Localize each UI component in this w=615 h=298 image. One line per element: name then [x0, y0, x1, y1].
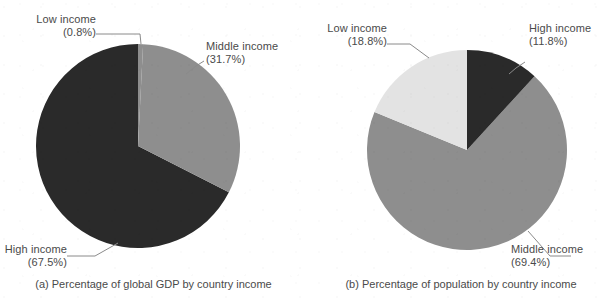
leader-line-a-low-income — [96, 34, 141, 44]
caption-panel-a: (a) Percentage of global GDP by country … — [0, 278, 307, 290]
caption-panel-b: (b) Percentage of population by country … — [307, 278, 615, 290]
label-a-high-income: High income (67.5%) — [0, 243, 67, 269]
label-b-middle-income-value: (69.4%) — [511, 256, 583, 269]
pie-chart-panel-a: Low income (0.8%) Middle income (31.7%) … — [0, 0, 307, 298]
label-a-low-income-name: Low income — [24, 13, 96, 26]
leader-line-b-low-income — [387, 44, 429, 58]
label-a-high-income-value: (67.5%) — [0, 256, 67, 269]
figure-two-pie-charts: Low income (0.8%) Middle income (31.7%) … — [0, 0, 615, 298]
label-b-low-income-name: Low income — [315, 22, 387, 35]
label-a-low-income: Low income (0.8%) — [24, 13, 96, 39]
label-a-middle-income: Middle income (31.7%) — [206, 40, 278, 66]
label-b-low-income-value: (18.8%) — [315, 35, 387, 48]
label-b-middle-income: Middle income (69.4%) — [511, 243, 583, 269]
label-b-middle-income-name: Middle income — [511, 243, 583, 256]
label-a-low-income-value: (0.8%) — [24, 26, 96, 39]
label-b-high-income: High income (11.8%) — [529, 22, 591, 48]
label-a-middle-income-value: (31.7%) — [206, 53, 278, 66]
pie-chart-panel-b: Low income (18.8%) High income (11.8%) M… — [307, 0, 615, 298]
label-b-low-income: Low income (18.8%) — [315, 22, 387, 48]
label-a-middle-income-name: Middle income — [206, 40, 278, 53]
label-a-high-income-name: High income — [0, 243, 67, 256]
label-b-high-income-name: High income — [529, 22, 591, 35]
leader-line-a-high-income — [67, 243, 118, 256]
label-b-high-income-value: (11.8%) — [529, 35, 591, 48]
